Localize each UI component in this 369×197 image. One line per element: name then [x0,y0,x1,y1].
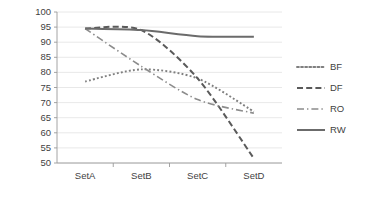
legend-label: RW [330,125,346,135]
y-axis-tick-label: 55 [40,142,51,153]
legend-item-df[interactable]: DF [296,77,366,98]
axis-lines [54,12,282,167]
chart-svg: 50556065707580859095100 SetASetBSetCSetD [0,0,290,197]
x-axis-tick-label: SetB [131,170,152,181]
y-axis-tick-label: 90 [40,36,51,47]
legend-label: BF [330,62,342,72]
legend-swatch-ro-icon [296,104,326,114]
plot-area: 50556065707580859095100 SetASetBSetCSetD [0,0,290,197]
y-axis-tick-label: 50 [40,157,51,168]
legend-swatch-df-icon [296,83,326,93]
y-axis-tick-label: 65 [40,112,51,123]
legend-swatch-bf-icon [296,62,326,72]
legend-item-ro[interactable]: RO [296,98,366,119]
y-axis-tick-label: 100 [35,6,51,17]
x-axis-tick-labels: SetASetBSetCSetD [75,170,265,181]
data-series-group [85,27,254,159]
y-axis-tick-labels: 50556065707580859095100 [35,6,51,168]
legend-item-rw[interactable]: RW [296,119,366,140]
legend-label: DF [330,83,343,93]
y-axis-tick-label: 95 [40,21,51,32]
series-line-rw [85,29,254,37]
y-axis-tick-label: 60 [40,127,51,138]
series-line-bf [85,69,254,111]
x-axis-tick-label: SetD [243,170,264,181]
y-axis-tick-label: 80 [40,66,51,77]
legend-swatch-rw-icon [296,125,326,135]
chart-legend: BFDFRORW [296,56,366,140]
x-axis-tick-label: SetC [187,170,208,181]
x-axis-tick-label: SetA [75,170,96,181]
line-chart: 50556065707580859095100 SetASetBSetCSetD… [0,0,369,197]
series-line-ro [85,29,254,114]
legend-item-bf[interactable]: BF [296,56,366,77]
y-axis-tick-label: 75 [40,82,51,93]
gridlines [57,12,282,163]
y-axis-tick-label: 70 [40,97,51,108]
legend-label: RO [330,104,344,114]
y-axis-tick-label: 85 [40,51,51,62]
